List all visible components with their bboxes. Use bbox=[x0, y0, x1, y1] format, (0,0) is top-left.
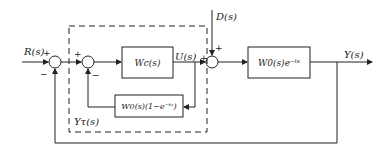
plant-block-label: W0(s)e⁻ᵗˢ bbox=[248, 47, 310, 78]
disturbance-label: D(s) bbox=[216, 12, 237, 22]
summing-junction-2 bbox=[82, 56, 94, 68]
j1-plus-sign: + bbox=[43, 49, 51, 58]
j1-minus-sign: − bbox=[40, 70, 48, 79]
summing-junction-1 bbox=[49, 56, 61, 68]
summing-junction-3 bbox=[206, 56, 218, 68]
diagram-lines bbox=[0, 0, 387, 155]
control-signal-label: U(s) bbox=[175, 52, 196, 62]
input-label: R(s) bbox=[24, 47, 44, 57]
controller-block-label: Wc(s) bbox=[122, 47, 173, 78]
j3-d-plus-sign: + bbox=[215, 44, 223, 53]
predictor-feedback-label: Yτ(s) bbox=[74, 117, 99, 127]
predictor-block-label: W0(s)(1−e⁻ᵗˢ) bbox=[115, 95, 183, 117]
output-label: Y(s) bbox=[344, 50, 364, 60]
j3-u-plus-sign: + bbox=[200, 54, 208, 63]
j2-plus-sign: + bbox=[74, 50, 82, 59]
j2-minus-sign: − bbox=[92, 71, 100, 80]
smith-predictor-diagram: R(s) + − + − Wc(s) U(s) + D(s) + W0(s)e⁻… bbox=[0, 0, 387, 155]
